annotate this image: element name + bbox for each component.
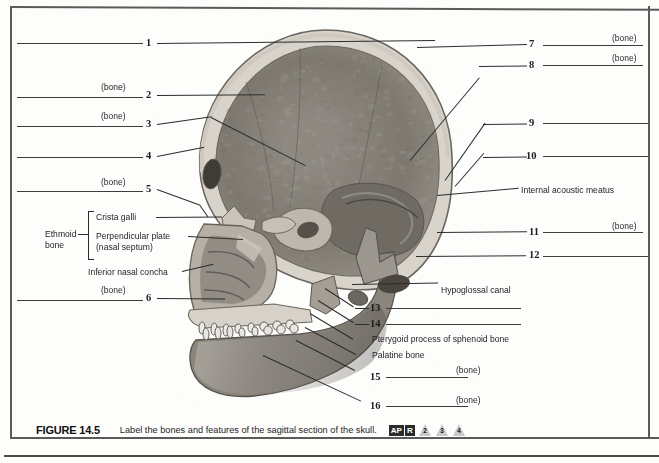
annotation-internal-acoustic-meatus: Internal acoustic meatus [521, 185, 614, 196]
leader-line-9b [483, 124, 527, 125]
ethmoid-brace-stem [78, 234, 88, 235]
figure-number: FIGURE 14.5 [36, 424, 100, 436]
label-number-11: 11 [529, 226, 539, 237]
answer-blank-6[interactable] [17, 300, 143, 301]
bone-tag-16: (bone) [456, 395, 481, 405]
apr-badge-ap: AP [389, 425, 404, 436]
annotation-hypoglossal-canal: Hypoglossal canal [441, 285, 511, 296]
bone-tag-5: (bone) [101, 177, 126, 187]
bone-tag-15: (bone) [456, 365, 481, 375]
annotation-pterygoid-process: Pterygoid process of sphenoid bone [372, 334, 509, 345]
caption-icon-group: AP R 2 3 4 [388, 424, 466, 436]
annotation-perpendicular-plate-line1: Perpendicular plate [96, 231, 170, 242]
label-number-9: 9 [529, 117, 534, 128]
bone-tag-3: (bone) [101, 111, 126, 121]
label-number-16: 16 [370, 400, 381, 411]
figure-caption: FIGURE 14.5 Label the bones and features… [36, 420, 636, 440]
ethmoid-brace [88, 211, 94, 260]
answer-blank-2[interactable] [17, 97, 143, 98]
page-frame-left [10, 6, 12, 439]
answer-blank-1[interactable] [17, 43, 143, 44]
apr-badge-r: R [405, 425, 415, 436]
label-number-15: 15 [370, 371, 381, 382]
bone-tag-11: (bone) [612, 221, 637, 231]
module-triangle-number-3: 3 [436, 427, 449, 434]
annotation-ethmoid-bone-line1: Ethmoid [45, 229, 77, 240]
label-number-10: 10 [526, 150, 537, 161]
annotation-ethmoid-bone-line2: bone [45, 240, 64, 251]
module-triangle-icon-4: 4 [453, 424, 466, 436]
answer-blank-10[interactable] [543, 156, 648, 157]
answer-blank-15[interactable] [386, 377, 468, 378]
worksheet-page: 1 (bone) 2 (bone) 3 4 (bone) 5 Ethmoid b… [0, 0, 659, 463]
module-triangle-icon-3: 3 [436, 424, 449, 436]
annotation-perpendicular-plate-line2: (nasal septum) [96, 242, 153, 253]
answer-blank-13[interactable] [386, 308, 521, 309]
answer-blank-11[interactable] [543, 232, 643, 233]
module-triangle-number-4: 4 [453, 427, 466, 434]
label-number-3: 3 [146, 118, 151, 129]
page-bottom-rule [4, 455, 659, 457]
bone-tag-8: (bone) [612, 53, 637, 63]
answer-blank-12[interactable] [543, 256, 648, 257]
figure-caption-text: Label the bones and features of the sagi… [120, 425, 377, 435]
leader-line-13b [355, 308, 369, 309]
bone-tag-7: (bone) [612, 33, 637, 43]
page-frame-right [648, 6, 650, 439]
answer-blank-7[interactable] [543, 45, 643, 46]
label-number-14: 14 [370, 318, 381, 329]
module-triangle-icon-2: 2 [419, 424, 432, 436]
answer-blank-9[interactable] [543, 123, 648, 124]
answer-blank-14[interactable] [386, 324, 521, 325]
label-number-13: 13 [370, 302, 381, 313]
label-number-4: 4 [146, 150, 151, 161]
label-number-6: 6 [146, 292, 151, 303]
label-number-12: 12 [529, 249, 540, 260]
answer-blank-4[interactable] [17, 157, 143, 158]
annotation-inferior-nasal-concha: Inferior nasal concha [88, 267, 168, 278]
page-frame-top [10, 6, 659, 11]
leader-line-14b [355, 324, 369, 325]
label-number-7: 7 [529, 38, 534, 49]
annotation-crista-galli: Crista galli [96, 212, 136, 223]
bone-tag-6: (bone) [101, 285, 126, 295]
annotation-palatine-bone: Palatine bone [372, 350, 425, 361]
bone-tag-2: (bone) [101, 82, 126, 92]
answer-blank-3[interactable] [17, 126, 143, 127]
answer-blank-5[interactable] [17, 191, 143, 192]
answer-blank-16[interactable] [386, 406, 468, 407]
label-number-8: 8 [529, 59, 534, 70]
module-triangle-number-2: 2 [419, 427, 432, 434]
label-number-2: 2 [146, 89, 151, 100]
label-number-5: 5 [146, 183, 151, 194]
leader-line-10b [483, 157, 527, 158]
label-number-1: 1 [146, 37, 151, 48]
leader-line-8b [479, 65, 527, 67]
leader-line-11 [437, 231, 527, 233]
answer-blank-8[interactable] [543, 65, 643, 66]
